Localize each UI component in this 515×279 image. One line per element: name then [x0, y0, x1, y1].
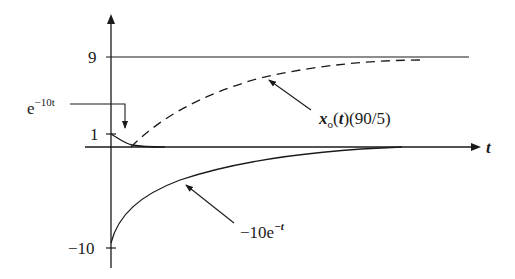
y-tick-9: 9	[88, 48, 97, 67]
curve-e-10t	[111, 134, 165, 147]
leader-xo	[269, 80, 311, 110]
label-xo: xo(t)(90/5)	[318, 109, 391, 130]
label-e10t: e−10t	[27, 96, 55, 118]
label-m10et: −10e−t	[240, 220, 285, 242]
x-axis-label: t	[486, 138, 492, 157]
y-axis-arrow-icon	[107, 14, 115, 24]
curve-xo-dashed	[131, 60, 424, 147]
leader-m10et	[186, 185, 234, 223]
y-tick-1: 1	[90, 125, 99, 144]
y-tick-m10: −10	[68, 239, 95, 258]
diagram-canvas: t 9 1 −10 e−10t xo(t)(90/5) −10e−t	[0, 0, 515, 279]
x-axis-arrow-icon	[471, 143, 481, 151]
